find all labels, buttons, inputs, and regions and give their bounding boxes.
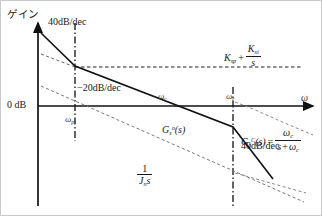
plant-open-loop-label: Gso(s) (162, 125, 185, 136)
omega-c-tick-label: ωc (158, 92, 167, 102)
ki-numerator: Ksi (246, 43, 261, 57)
x-axis-label: ω (301, 93, 308, 103)
integrator-fraction: 1 Jns (137, 163, 152, 188)
omega-c-subscript: c (164, 96, 166, 102)
bode-plot-figure: ゲイン ω 0 dB 40dB/dec −20dB/dec 40dB/dec ω… (0, 0, 322, 216)
omega-pi-tick-label: ωpi (65, 115, 76, 125)
plus-operator: + (236, 52, 246, 63)
integrator-label: 1 Jns (137, 163, 152, 188)
filter-numerator: ωc (275, 127, 300, 141)
ki-subscript: si (255, 48, 259, 55)
slope-label-40db-upper: 40dB/dec (48, 17, 86, 27)
filter-fraction: ωc s+ωc (275, 127, 300, 153)
integrator-numerator: 1 (137, 163, 152, 175)
integrator-denominator: Jns (137, 175, 152, 188)
g-argument: (s) (175, 124, 186, 135)
omega-c-den-symbol: ω (289, 141, 296, 152)
laplace-s-symbol: s (147, 175, 151, 186)
equals-operator: = (266, 136, 276, 147)
filter-den-plus: + (281, 141, 289, 152)
ki-denominator: s (246, 57, 261, 68)
y-axis-label: ゲイン (7, 9, 39, 20)
ki-over-s-fraction: Ksi s (246, 43, 261, 68)
omega-c-num-subscript: c (290, 132, 293, 139)
kp-symbol: K (224, 52, 231, 63)
omega-r-tick-label: ωr (226, 92, 235, 102)
omega-c-den-subscript: c (296, 145, 299, 152)
slope-label-minus-20db: −20dB/dec (77, 83, 121, 93)
gc-argument: (s) (255, 136, 266, 147)
pi-controller-expression: Ksp+ Ksi s (224, 43, 261, 68)
ki-symbol: K (248, 43, 255, 54)
omega-pi-subscript: pi (71, 119, 75, 125)
bode-plot-canvas (1, 1, 322, 216)
omega-r-subscript: r (232, 96, 234, 102)
filter-expression: GcC(s)= ωc s+ωc (241, 127, 301, 153)
zero-db-label: 0 dB (7, 100, 26, 110)
filter-denominator: s+ωc (275, 141, 300, 154)
